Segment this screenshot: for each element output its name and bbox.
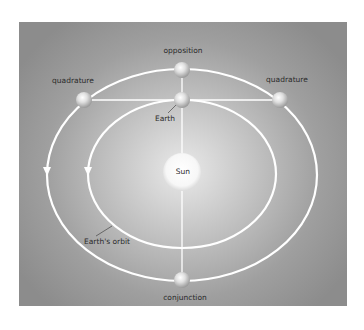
label-earths-orbit: Earth's orbit <box>84 237 130 246</box>
earth <box>174 92 190 108</box>
label-earth: Earth <box>155 114 175 123</box>
earth-orbit-direction-arrow-icon <box>84 167 92 176</box>
orbit-diagram: opposition quadrature quadrature Earth S… <box>0 0 364 330</box>
label-quadrature-right: quadrature <box>266 75 308 84</box>
planet-quadrature-right <box>272 92 288 108</box>
planet-conjunction <box>174 272 190 288</box>
label-sun: Sun <box>176 167 191 176</box>
planet-quadrature-left <box>76 92 92 108</box>
earth-pointer-line <box>168 104 177 113</box>
earths-orbit-pointer-line <box>96 226 112 236</box>
label-quadrature-left: quadrature <box>52 76 94 85</box>
planet-opposition <box>174 62 190 78</box>
label-conjunction: conjunction <box>163 293 207 302</box>
outer-orbit-direction-arrow-icon <box>43 167 51 176</box>
label-opposition: opposition <box>163 46 202 55</box>
